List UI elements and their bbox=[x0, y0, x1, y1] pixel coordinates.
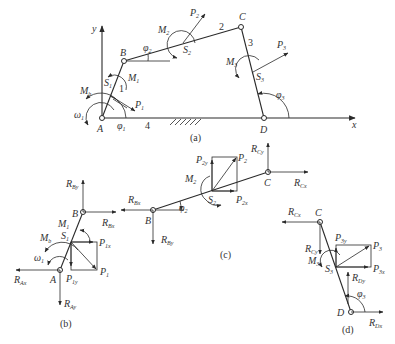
P3-label: P3 bbox=[276, 39, 286, 51]
joint-C bbox=[239, 25, 244, 30]
S1-label: S1 bbox=[61, 230, 69, 242]
RCy-label: RCy bbox=[304, 243, 318, 255]
S3-label: S3 bbox=[325, 263, 333, 275]
P1-arrow bbox=[71, 242, 96, 269]
caption-b: (b) bbox=[60, 318, 72, 330]
phi2-label: φ2 bbox=[179, 202, 188, 214]
panel-d: C D RCx RCy RDx RDy φ3 P3y P3 P3x S3 M3 … bbox=[282, 206, 385, 336]
phi1-label: φ1 bbox=[117, 120, 126, 132]
joint-B-label: B bbox=[72, 208, 78, 219]
P2y-label: P2y bbox=[195, 154, 208, 166]
P3-label: P3 bbox=[372, 240, 382, 252]
RBy-label: RBy bbox=[160, 234, 174, 246]
panel-b: A B RBy RBx RAx RAy P1x P1 P1y S1 M1 Mb … bbox=[13, 178, 116, 330]
omega-label: ω1 bbox=[74, 109, 84, 121]
P3y-label: P3y bbox=[334, 232, 347, 244]
M2-label: M2 bbox=[157, 24, 169, 36]
S3-label: S3 bbox=[256, 71, 264, 83]
y-axis-label: y bbox=[91, 23, 97, 34]
ground-hatch-icon bbox=[170, 119, 201, 125]
S2-label: S2 bbox=[183, 44, 191, 56]
panel-c: φ2 B C RBx RBy RCy RCx P2y P2 P2x S2 M2 … bbox=[121, 143, 308, 261]
phi1-arc bbox=[110, 96, 126, 118]
RCx-label: RCx bbox=[287, 206, 301, 218]
P1-label: P1 bbox=[134, 99, 144, 111]
RAx-label: RAx bbox=[13, 274, 27, 286]
joint-D-label: D bbox=[336, 307, 345, 318]
RAy-label: RAy bbox=[63, 298, 76, 310]
phi2-label: φ2 bbox=[143, 42, 152, 54]
omega-label: ω1 bbox=[34, 252, 44, 264]
P3-arrow bbox=[336, 246, 369, 267]
RCx-label: RCx bbox=[293, 177, 307, 189]
joint-B-label: B bbox=[120, 47, 126, 58]
P3x-label: P3x bbox=[372, 263, 385, 275]
S1-label: S1 bbox=[104, 77, 112, 89]
joint-B bbox=[122, 59, 127, 64]
caption-c: (c) bbox=[220, 249, 231, 261]
M1-arc bbox=[80, 230, 90, 243]
joint-C-label: C bbox=[239, 11, 246, 22]
x-axis-label: x bbox=[351, 119, 357, 130]
P1y-label: P1y bbox=[65, 273, 78, 285]
RCy-label: RCy bbox=[250, 143, 264, 155]
P1-arrow bbox=[111, 96, 135, 111]
link-2-label: 2 bbox=[219, 21, 224, 32]
RDy-label: RDy bbox=[351, 272, 365, 284]
joint-B-label: B bbox=[145, 215, 151, 226]
M1-label: M1 bbox=[127, 72, 139, 84]
caption-a: (a) bbox=[190, 132, 201, 144]
omega-arc bbox=[86, 102, 114, 125]
joint-D bbox=[262, 116, 267, 121]
P1-arrow-double bbox=[113, 99, 127, 108]
caption-d: (d) bbox=[342, 324, 354, 336]
M3-label: M3 bbox=[307, 255, 319, 267]
Mb-label: Mb bbox=[39, 232, 51, 244]
M2-label: M2 bbox=[184, 173, 196, 185]
RBx-label: RBx bbox=[127, 194, 141, 206]
joint-A-label: A bbox=[49, 274, 57, 285]
P2x-label: P2x bbox=[235, 194, 248, 206]
P2-label: P2 bbox=[237, 152, 247, 164]
P1x-label: P1x bbox=[98, 237, 111, 249]
omega-arc bbox=[48, 256, 68, 265]
phi3-label: φ3 bbox=[276, 89, 285, 101]
link-4-label: 4 bbox=[145, 120, 150, 131]
M1-label: M1 bbox=[57, 218, 69, 230]
mechanism-diagram: y x 4 A B C D 2 3 1 φ1 bbox=[0, 0, 395, 344]
P3-arrow bbox=[253, 53, 288, 72]
joint-C-label: C bbox=[315, 207, 322, 218]
joint-C-label: C bbox=[264, 177, 271, 188]
panel-a: y x 4 A B C D 2 3 1 φ1 bbox=[74, 7, 357, 144]
joint-A-label: A bbox=[96, 123, 104, 134]
joint-A bbox=[100, 116, 105, 121]
P2-label: P2 bbox=[189, 7, 199, 19]
M3-label: M3 bbox=[225, 56, 237, 68]
phi3-label: φ3 bbox=[357, 288, 366, 300]
joint-D-label: D bbox=[259, 124, 268, 135]
RDx-label: RDx bbox=[368, 317, 382, 329]
RBy-label: RBy bbox=[65, 178, 79, 190]
Mb-label: Mb bbox=[79, 85, 91, 97]
link-1-label: 1 bbox=[119, 83, 124, 94]
RBx-label: RBx bbox=[101, 217, 115, 229]
link-3-label: 3 bbox=[248, 37, 253, 48]
P1-label: P1 bbox=[99, 266, 109, 278]
